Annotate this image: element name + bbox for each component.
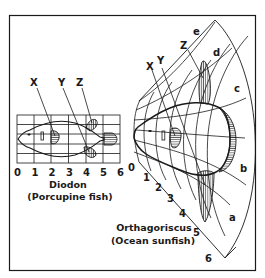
diodon-tick-1: 1 [32, 167, 39, 178]
diodon-label-z: Z [76, 77, 83, 88]
diodon-gill [41, 132, 44, 140]
diodon-tick-2: 2 [49, 167, 56, 178]
sunfish-arc-label-b: b [240, 163, 247, 174]
diodon-tick-5: 5 [100, 167, 107, 178]
sunfish-eye [148, 130, 152, 132]
diodon-tail-fin [104, 133, 117, 145]
sunfish-leader-z [188, 50, 203, 78]
sunfish-tick-2: 2 [155, 182, 162, 193]
sunfish-tick-4: 4 [179, 208, 186, 219]
sunfish-tick-0: 0 [128, 162, 135, 173]
sunfish-label-y: Y [156, 55, 165, 66]
sunfish-fin-y [198, 171, 214, 222]
diodon-leader-x [37, 88, 55, 136]
sunfish-tick-3: 3 [167, 193, 174, 204]
sunfish-arc-label-d: d [213, 47, 220, 58]
diodon-figure: X Y Z 0 1 2 3 4 5 6 Diodon (Porcupine fi… [14, 77, 124, 202]
sunfish-fin-x [170, 128, 181, 148]
transformation-diagram: X Y Z 0 1 2 3 4 5 6 Diodon (Porcupine fi… [0, 0, 265, 278]
sunfish-arc-label-a: a [229, 212, 236, 223]
diodon-label-x: X [30, 77, 38, 88]
diodon-fin-x [51, 131, 59, 144]
sunfish-tick-6: 6 [205, 253, 212, 264]
diodon-caption-common: (Porcupine fish) [27, 191, 112, 202]
diodon-eye [27, 134, 30, 136]
sunfish-label-x: X [146, 61, 154, 72]
diodon-tick-3: 3 [66, 167, 73, 178]
diodon-leader-z [82, 88, 92, 123]
sunfish-tick-1: 1 [143, 172, 150, 183]
orthagoriscus-figure: X Y Z e d c b a 0 1 2 3 4 5 6 Orthagoris… [111, 20, 255, 264]
diodon-tick-4: 4 [83, 167, 90, 178]
sunfish-arc-label-e: e [193, 26, 200, 37]
diodon-tick-0: 0 [14, 167, 21, 178]
sunfish-tail-fringe [219, 108, 236, 172]
sunfish-grid-radials [134, 22, 246, 205]
sunfish-caption-name: Orthagoriscus [116, 222, 192, 233]
sunfish-label-z: Z [180, 40, 187, 51]
sunfish-caption-common: (Ocean sunfish) [111, 235, 195, 246]
sunfish-arc-label-c: c [234, 83, 240, 94]
diodon-label-y: Y [57, 77, 66, 88]
diodon-caption-name: Diodon [49, 179, 87, 190]
diodon-tick-6: 6 [117, 167, 124, 178]
sunfish-leader-x [152, 70, 175, 136]
